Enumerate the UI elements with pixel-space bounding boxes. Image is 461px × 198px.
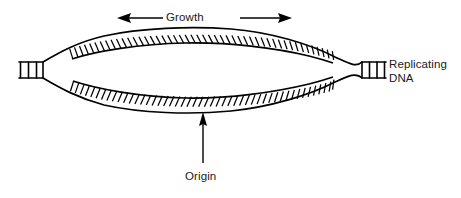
replicating-dna-label: ReplicatingDNA — [389, 58, 447, 85]
growth-label: Growth — [166, 11, 204, 25]
origin-label: Origin — [185, 170, 216, 184]
upper-arm-rungs — [70, 35, 334, 60]
lower-arm-rungs — [70, 80, 334, 107]
origin-arrow — [199, 112, 207, 163]
lower-inner-strand — [73, 77, 333, 98]
replication-bubble-diagram: Growth Origin ReplicatingDNA — [0, 0, 461, 198]
growth-arrow — [117, 13, 292, 23]
diagram-canvas — [0, 0, 461, 198]
origin-arrowhead — [199, 112, 207, 126]
replicating-dna-label-line1: Replicating — [389, 58, 447, 70]
upper-inner-strand — [72, 43, 333, 63]
right-duplex-stub — [362, 62, 386, 78]
left-duplex-stub — [19, 62, 43, 78]
replicating-dna-label-line2: DNA — [389, 72, 414, 84]
growth-arrowhead-left — [117, 13, 131, 23]
growth-arrowhead-right — [278, 13, 292, 23]
